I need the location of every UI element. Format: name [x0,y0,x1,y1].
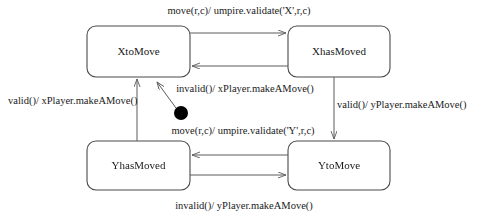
state-XhasMoved[interactable]: XhasMoved [288,26,390,77]
state-YhasMoved[interactable]: YhasMoved [87,141,190,190]
transition-label-x-move: move(r,c)/ umpire.validate('X',r,c) [167,5,311,17]
state-label-xhasmoved: XhasMoved [312,45,366,57]
transition-label-x-valid: valid()/ xPlayer.makeAMove() [8,95,138,107]
state-label-xtomove: XtoMove [117,45,159,57]
transition-label-x-invalid: invalid()/ xPlayer.makeAMove() [176,83,314,95]
state-label-ytomove: YtoMove [318,159,360,171]
state-label-yhasmoved: YhasMoved [112,159,166,171]
state-diagram: XtoMove XhasMoved YhasMoved YtoMove [0,0,484,221]
transition-label-y-invalid: invalid()/ yPlayer.makeAMove() [175,200,313,212]
diagram-canvas: XtoMove XhasMoved YhasMoved YtoMove [0,0,484,221]
state-YtoMove[interactable]: YtoMove [288,141,390,190]
transition-label-y-valid: valid()/ yPlayer.makeAMove() [337,99,467,111]
initial-transition-arrow [157,82,176,108]
transition-label-y-move: move(r,c)/ umpire.validate('Y',r,c) [171,125,315,137]
initial-state-dot [174,106,188,120]
state-XtoMove[interactable]: XtoMove [87,26,190,77]
